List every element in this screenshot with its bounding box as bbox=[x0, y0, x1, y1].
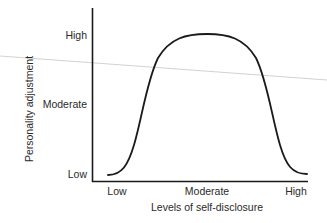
x-tick-high: High bbox=[285, 186, 307, 197]
y-tick-low: Low bbox=[68, 169, 87, 180]
x-tick-moderate: Moderate bbox=[185, 186, 229, 197]
y-tick-moderate: Moderate bbox=[43, 99, 87, 110]
adjustment-curve bbox=[108, 34, 307, 175]
chart-canvas bbox=[0, 0, 327, 223]
stray-scan-line bbox=[0, 56, 327, 80]
y-axis-title: Personality adjustment bbox=[24, 56, 35, 162]
x-tick-low: Low bbox=[107, 186, 126, 197]
y-tick-high: High bbox=[65, 30, 87, 41]
x-axis-title: Levels of self-disclosure bbox=[151, 202, 263, 213]
